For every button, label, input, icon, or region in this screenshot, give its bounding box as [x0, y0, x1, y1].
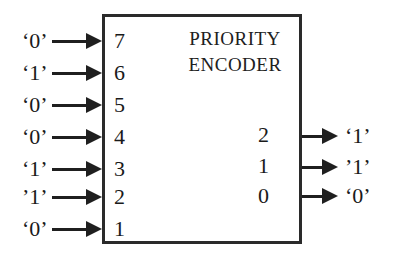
output-pin-label-1: 1	[258, 155, 269, 177]
input-pin-label-1: 1	[114, 218, 125, 240]
input-pin-label-3: 3	[114, 158, 125, 180]
input-arrow-shaft-2	[52, 196, 88, 199]
output-value-0: ‘0’	[345, 185, 371, 207]
block-title-line-1: PRIORITY	[170, 26, 300, 52]
output-value-2: ‘1’	[345, 125, 371, 147]
input-pin-label-4: 4	[114, 126, 125, 148]
output-pin-label-0: 0	[258, 185, 269, 207]
input-arrow-shaft-1	[52, 228, 88, 231]
output-arrow-shaft-0	[302, 195, 324, 198]
input-arrow-shaft-3	[52, 168, 88, 171]
input-arrow-head-7	[86, 33, 102, 49]
input-pin-label-7: 7	[114, 30, 125, 52]
input-pin-label-2: 2	[114, 186, 125, 208]
input-arrow-head-6	[86, 65, 102, 81]
output-pin-label-2: 2	[258, 124, 269, 146]
block-title-line-2: ENCODER	[170, 52, 300, 78]
input-arrow-shaft-5	[52, 104, 88, 107]
input-arrow-head-2	[86, 189, 102, 205]
output-arrow-shaft-2	[302, 135, 324, 138]
output-arrow-head-0	[322, 188, 338, 204]
input-pin-label-6: 6	[114, 62, 125, 84]
input-pin-label-5: 5	[114, 94, 125, 116]
input-arrow-shaft-4	[52, 136, 88, 139]
input-arrow-head-1	[86, 221, 102, 237]
output-value-1: ’1’	[345, 156, 371, 178]
input-arrow-shaft-6	[52, 72, 88, 75]
block-title: PRIORITY ENCODER	[170, 26, 300, 78]
input-arrow-head-5	[86, 97, 102, 113]
output-arrow-head-2	[322, 128, 338, 144]
input-arrow-shaft-7	[52, 40, 88, 43]
output-arrow-shaft-1	[302, 166, 324, 169]
diagram-canvas: PRIORITY ENCODER ‘0’ 7 ‘1’ 6 ‘0’ 5 ‘0’ 4…	[0, 0, 399, 262]
output-arrow-head-1	[322, 159, 338, 175]
input-arrow-head-3	[86, 161, 102, 177]
input-arrow-head-4	[86, 129, 102, 145]
